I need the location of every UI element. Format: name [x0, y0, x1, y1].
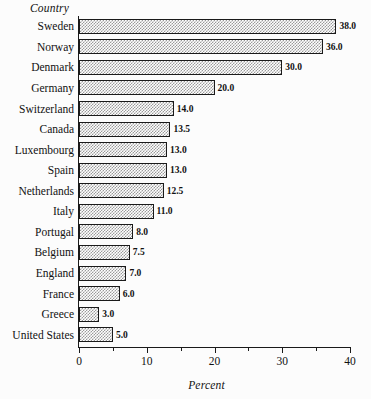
bar-value-label: 7.0: [129, 268, 141, 278]
x-axis-title: Percent: [0, 379, 371, 391]
category-label: Canada: [40, 123, 74, 135]
bar-value-label: 8.0: [136, 227, 148, 237]
bar: 13.0: [79, 142, 167, 157]
bar-value-label: 11.0: [157, 206, 173, 216]
category-label: Belgium: [34, 246, 74, 258]
category-label: Luxembourg: [15, 144, 74, 156]
bar-value-label: 36.0: [326, 42, 343, 52]
y-axis-title: Country: [30, 2, 69, 14]
x-tick-minor: [181, 348, 182, 351]
bar: 13.5: [79, 122, 170, 137]
bar: 3.0: [79, 307, 99, 322]
x-tick-label: 0: [76, 355, 82, 367]
bar-value-label: 13.5: [173, 124, 190, 134]
bar-row: Belgium7.5: [79, 242, 350, 263]
bar: 5.0: [79, 327, 113, 342]
x-tick-major: [215, 348, 216, 353]
bar: 12.5: [79, 183, 164, 198]
x-tick-label: 10: [141, 355, 153, 367]
bar: 14.0: [79, 101, 174, 116]
x-tick-label: 30: [277, 355, 289, 367]
x-tick-label: 40: [344, 355, 356, 367]
category-label: Netherlands: [18, 185, 74, 197]
bar-row: France6.0: [79, 283, 350, 304]
bar: 11.0: [79, 204, 154, 219]
bar: 36.0: [79, 39, 323, 54]
bar-row: Germany20.0: [79, 78, 350, 99]
category-label: Norway: [37, 41, 74, 53]
x-tick-major: [147, 348, 148, 353]
bar-row: Canada13.5: [79, 119, 350, 140]
bar-row: Denmark30.0: [79, 57, 350, 78]
bar: 8.0: [79, 224, 133, 239]
x-axis-ticks: 010203040: [79, 348, 350, 368]
bar-row: England7.0: [79, 263, 350, 284]
x-tick-minor: [316, 348, 317, 351]
bar: 38.0: [79, 19, 336, 34]
bar-value-label: 7.5: [133, 247, 145, 257]
bar-value-label: 12.5: [167, 186, 184, 196]
x-tick-major: [79, 348, 80, 353]
bar: 30.0: [79, 60, 282, 75]
bar-row: United States5.0: [79, 324, 350, 345]
category-label: Switzerland: [19, 103, 74, 115]
bar: 7.5: [79, 245, 130, 260]
bar-value-label: 13.0: [170, 145, 187, 155]
category-label: United States: [12, 329, 74, 341]
bar-value-label: 30.0: [285, 62, 302, 72]
bar-value-label: 38.0: [339, 21, 356, 31]
category-label: Portugal: [35, 226, 74, 238]
category-label: Spain: [48, 164, 74, 176]
bar-row: Netherlands12.5: [79, 181, 350, 202]
bar-row: Norway36.0: [79, 37, 350, 58]
x-tick-label: 20: [209, 355, 221, 367]
category-label: Greece: [41, 308, 74, 320]
bar-chart: Country Sweden38.0Norway36.0Denmark30.0G…: [0, 0, 371, 399]
category-label: Italy: [53, 205, 74, 217]
bar: 7.0: [79, 266, 126, 281]
bar-value-label: 13.0: [170, 165, 187, 175]
bar-row: Sweden38.0: [79, 16, 350, 37]
bar-value-label: 5.0: [116, 330, 128, 340]
bar-row: Luxembourg13.0: [79, 139, 350, 160]
x-tick-major: [350, 348, 351, 353]
bar-row: Portugal8.0: [79, 222, 350, 243]
bar: 13.0: [79, 163, 167, 178]
bar-row: Greece3.0: [79, 304, 350, 325]
bar-row: Switzerland14.0: [79, 98, 350, 119]
x-tick-minor: [248, 348, 249, 351]
bar-row: Italy11.0: [79, 201, 350, 222]
bar-value-label: 6.0: [123, 289, 135, 299]
bar: 20.0: [79, 80, 215, 95]
category-label: Sweden: [38, 20, 74, 32]
bar-value-label: 14.0: [177, 104, 194, 114]
bar-value-label: 3.0: [102, 309, 114, 319]
category-label: France: [43, 288, 74, 300]
bar-value-label: 20.0: [218, 83, 235, 93]
x-tick-minor: [113, 348, 114, 351]
category-label: Denmark: [31, 61, 74, 73]
category-label: England: [36, 267, 74, 279]
x-tick-major: [282, 348, 283, 353]
bar-row: Spain13.0: [79, 160, 350, 181]
bar: 6.0: [79, 286, 120, 301]
category-label: Germany: [31, 82, 74, 94]
plot-area: Sweden38.0Norway36.0Denmark30.0Germany20…: [79, 16, 350, 345]
